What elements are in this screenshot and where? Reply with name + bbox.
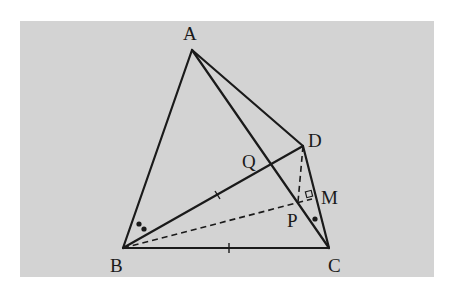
segment-ab	[123, 50, 192, 248]
label-b: B	[110, 255, 123, 276]
label-q: Q	[242, 151, 256, 172]
label-p: P	[287, 210, 298, 231]
geometry-diagram: A B C D Q P M	[0, 0, 455, 294]
angle-dot-c	[312, 216, 317, 221]
angle-dot-b-2	[141, 226, 146, 231]
label-a: A	[183, 23, 197, 44]
segment-bd	[123, 146, 303, 248]
right-angle-marker	[305, 190, 312, 197]
segment-bm-dashed	[123, 199, 312, 248]
label-d: D	[308, 130, 322, 151]
label-m: M	[321, 187, 338, 208]
label-c: C	[328, 255, 341, 276]
angle-dot-b-1	[136, 221, 141, 226]
segment-dp-dashed	[298, 146, 303, 202]
